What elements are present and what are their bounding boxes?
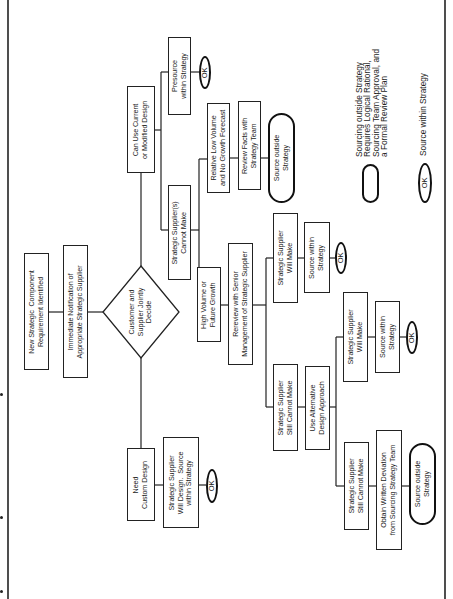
node-label: Obtain Written Deviation from Sourcing S… (380, 445, 397, 535)
margin-dot (0, 516, 3, 519)
ok-label: OK (337, 253, 346, 264)
node-label: Strategic Supplier Still Cannot Make (348, 459, 365, 514)
node-label: High Volume or Future Growth (200, 281, 217, 329)
ok-symbol: OK (206, 469, 218, 503)
node-label: Immediate Notification of Appropriate St… (67, 265, 84, 358)
node-supplier-will-design: Strategic Supplier Will Design. Source w… (163, 437, 199, 528)
node-label: Strategic Supplier Will Make (347, 310, 364, 365)
node-label: Rereview with Senior Management of Strat… (232, 251, 249, 356)
node-label: Relative Low Volume and No Growth Foreca… (210, 110, 227, 186)
margin-dot (0, 393, 3, 396)
node-label: New Strategic Component Requirement Iden… (28, 270, 45, 354)
ok-symbol: OK (406, 321, 418, 354)
node-label: Source outside Strategy (414, 461, 431, 508)
node-label: Presource within Strategy (171, 53, 188, 99)
legend-outside-text: Sourcing outside Strategy Requires Logic… (355, 49, 389, 157)
decision-customer-supplier: Customer and Supplier Jointly Decide (128, 288, 154, 337)
node-label: Need Custom Design (132, 461, 149, 509)
node-supplier-still-cannot-make-2: Strategic Supplier Still Cannot Make (344, 442, 369, 530)
node-label: Use Alternative Design Approach (309, 381, 326, 434)
ok-label: OK (408, 332, 417, 343)
node-low-volume: Relative Low Volume and No Growth Foreca… (207, 103, 230, 193)
node-label: Can Use Current or Modified Design (132, 100, 149, 158)
node-written-deviation: Obtain Written Deviation from Sourcing S… (376, 430, 402, 550)
node-need-custom-design: Need Custom Design (127, 448, 155, 521)
node-new-requirement: New Strategic Component Requirement Iden… (24, 253, 49, 370)
terminal-source-outside-2: Source outside Strategy (409, 443, 436, 525)
node-label: Strategic Supplier(s) Cannot Make (171, 201, 188, 264)
ok-symbol: OK (335, 242, 347, 274)
node-high-volume: High Volume or Future Growth (197, 267, 221, 342)
node-label: Strategic Supplier Will Make (277, 231, 294, 286)
ok-label: OK (201, 67, 210, 78)
terminal-source-outside: Source outside Strategy (268, 113, 295, 203)
node-supplier-cannot-make: Strategic Supplier(s) Cannot Make (168, 185, 191, 280)
ok-label: OK (208, 481, 217, 492)
node-presource: Presource within Strategy (168, 37, 191, 115)
node-can-use-current: Can Use Current or Modified Design (127, 86, 155, 173)
node-review-facts: Review Facts with Strategy Team (238, 101, 261, 190)
node-source-within: Source within Strategy (304, 222, 330, 293)
legend-ok-symbol: OK (418, 163, 432, 203)
node-label: Source within Strategy (379, 316, 396, 358)
legend-outside-symbol (362, 164, 379, 203)
legend-within-text: Source within Strategy (419, 73, 427, 156)
node-label: Strategic Supplier Will Design. Source w… (168, 451, 194, 514)
node-supplier-will-make: Strategic Supplier Will Make (273, 213, 298, 303)
node-immediate-notification: Immediate Notification of Appropriate St… (63, 245, 88, 378)
node-source-within-2: Source within Strategy (375, 301, 400, 373)
node-rereview-senior: Rereview with Senior Management of Strat… (228, 243, 253, 365)
node-label: Source outside Strategy (273, 135, 290, 182)
ok-label: OK (421, 178, 430, 189)
ok-symbol: OK (199, 56, 211, 89)
node-label: Source within Strategy (308, 237, 325, 279)
node-supplier-still-cannot-make: Strategic Supplier Still Cannot Make (273, 364, 298, 451)
margin-dot (0, 590, 3, 593)
node-label: Review Facts with Strategy Team (241, 117, 258, 173)
node-label: Strategic Supplier Still Cannot Make (277, 380, 294, 435)
node-supplier-will-make-2: Strategic Supplier Will Make (343, 292, 368, 382)
node-alternative-design: Use Alternative Design Approach (305, 366, 330, 450)
